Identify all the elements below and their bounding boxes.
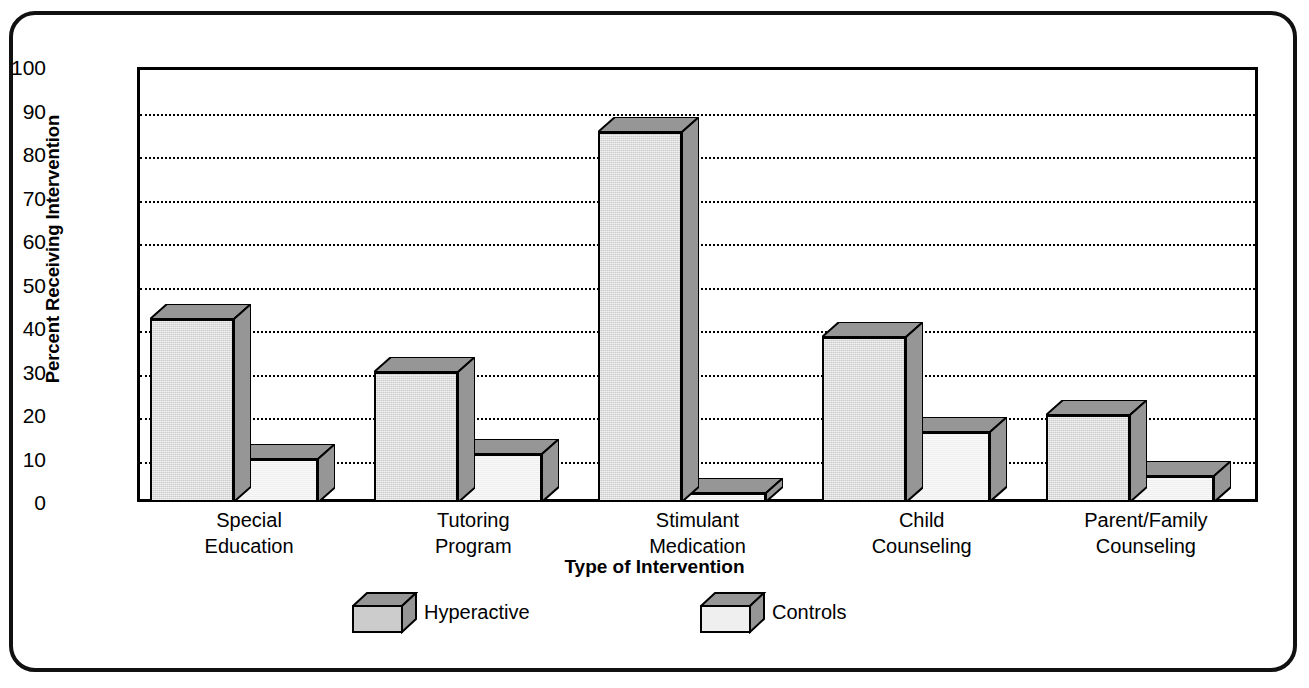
gridline <box>140 114 1255 116</box>
chart-figure: Percent Receiving Intervention 100908070… <box>0 0 1309 688</box>
legend-swatch-3d <box>700 592 766 634</box>
x-axis-tick-label: TutoringProgram <box>361 508 585 559</box>
gridline <box>140 418 1255 420</box>
chart-legend: HyperactiveControls <box>0 592 1309 644</box>
y-axis-tick-label: 10 <box>0 448 46 469</box>
x-tick-label-line1: Parent/Family <box>1034 508 1258 534</box>
legend-label: Controls <box>772 601 846 624</box>
gridline <box>140 288 1255 290</box>
y-axis-tick-label: 80 <box>0 144 46 165</box>
x-tick-label-line1: Tutoring <box>361 508 585 534</box>
y-axis-tick-label: 70 <box>0 187 46 208</box>
legend-entry: Hyperactive <box>352 592 530 632</box>
y-axis-tick-label: 30 <box>0 361 46 382</box>
gridline <box>140 375 1255 377</box>
gridline <box>140 331 1255 333</box>
gridlines <box>140 70 1255 499</box>
x-axis-tick-label: StimulantMedication <box>585 508 809 559</box>
y-axis-tick-label: 90 <box>0 100 46 121</box>
gridline <box>140 157 1255 159</box>
plot-area <box>137 67 1258 502</box>
gridline <box>140 462 1255 464</box>
legend-swatch-icon <box>700 592 766 632</box>
legend-swatch-3d <box>352 592 418 634</box>
x-tick-label-line1: Stimulant <box>585 508 809 534</box>
legend-label: Hyperactive <box>424 601 530 624</box>
legend-swatch-icon <box>352 592 418 632</box>
x-tick-label-line1: Special <box>137 508 361 534</box>
y-axis-tick-label: 100 <box>0 57 46 78</box>
x-axis-title: Type of Intervention <box>0 556 1309 578</box>
gridline <box>140 244 1255 246</box>
x-axis-tick-label: Parent/FamilyCounseling <box>1034 508 1258 559</box>
x-tick-label-line1: Child <box>810 508 1034 534</box>
x-axis-tick-label: SpecialEducation <box>137 508 361 559</box>
y-axis-tick-label: 20 <box>0 405 46 426</box>
x-axis-tick-label: ChildCounseling <box>810 508 1034 559</box>
y-axis-tick-label: 40 <box>0 318 46 339</box>
y-axis-tick-label: 0 <box>0 492 46 513</box>
y-axis-tick-label: 50 <box>0 274 46 295</box>
gridline <box>140 201 1255 203</box>
legend-entry: Controls <box>700 592 846 632</box>
y-axis-tick-label: 60 <box>0 231 46 252</box>
